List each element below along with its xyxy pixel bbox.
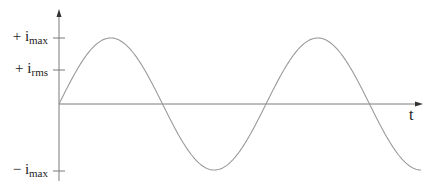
x-axis-label-t: t [409, 107, 413, 123]
label-sign: − [13, 161, 25, 177]
label-subscript: max [29, 34, 48, 46]
label-subscript: max [29, 167, 48, 179]
label-subscript: rms [32, 66, 49, 78]
label-irms-positive: + irms [15, 61, 48, 78]
sine-wave-diagram [0, 0, 430, 189]
label-sign: + [15, 60, 27, 76]
x-axis-arrow-icon [415, 102, 423, 107]
cropped-caption-fragment [0, 0, 430, 3]
label-imax-negative: − imax [13, 162, 48, 179]
label-sign: + [13, 28, 25, 44]
label-imax-positive: + imax [13, 29, 48, 46]
y-axis-arrow-icon [57, 9, 62, 17]
